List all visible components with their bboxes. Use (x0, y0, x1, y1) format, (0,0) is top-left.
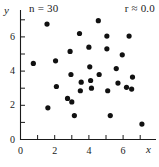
x-tick-label: 4 (83, 145, 95, 156)
data-point (120, 52, 125, 57)
data-point (89, 86, 94, 91)
sample-size-annotation: n = 30 (29, 2, 58, 14)
data-point (129, 86, 134, 91)
data-point (72, 113, 77, 118)
data-point (105, 88, 110, 93)
data-point (77, 31, 82, 36)
y-axis-label: y (4, 4, 9, 16)
data-point (97, 72, 102, 77)
axis-ticks (21, 20, 141, 140)
data-point (53, 58, 58, 63)
data-point (108, 113, 113, 118)
data-point (54, 84, 59, 89)
data-point (67, 49, 72, 54)
scatter-plot-figure: n = 30 r ≈ 0.0 y x 0246 0246 (0, 0, 159, 167)
data-point (88, 78, 93, 83)
y-tick-label: 6 (5, 31, 15, 42)
y-tick-label: 2 (5, 99, 15, 110)
axes (20, 10, 156, 140)
data-point (104, 33, 109, 38)
data-point (124, 85, 129, 90)
plot-canvas (0, 0, 159, 167)
data-point (44, 21, 49, 26)
data-point (114, 66, 119, 71)
y-tick-label: 0 (5, 134, 15, 145)
data-point (96, 18, 101, 23)
data-point (139, 122, 144, 127)
data-point (86, 45, 91, 50)
data-point (65, 96, 70, 101)
data-point (31, 61, 36, 66)
data-point (126, 33, 131, 38)
data-points (31, 18, 145, 127)
data-point (104, 46, 109, 51)
data-point (130, 74, 135, 79)
y-tick-label: 4 (5, 65, 15, 76)
data-point (78, 88, 83, 93)
data-point (115, 80, 120, 85)
x-axis-label: x (146, 143, 151, 155)
x-tick-label: 2 (49, 145, 61, 156)
x-tick-label: 0 (15, 145, 27, 156)
correlation-annotation: r ≈ 0.0 (125, 2, 155, 14)
data-point (69, 99, 74, 104)
x-tick-label: 6 (117, 145, 129, 156)
data-point (87, 64, 92, 69)
data-point (68, 72, 73, 77)
data-point (45, 105, 50, 110)
data-point (79, 80, 84, 85)
